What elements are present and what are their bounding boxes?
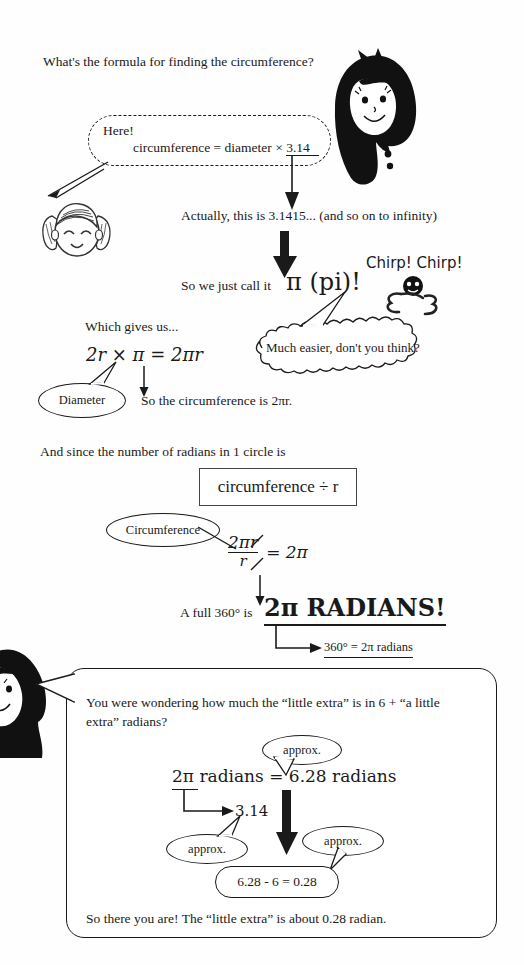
approx-callout-3-label: approx.	[324, 834, 362, 849]
panel-tail	[34, 672, 82, 710]
approx-callout-2: approx.	[166, 834, 248, 864]
chirping-bird-icon	[375, 274, 447, 322]
chirp-label: Chirp! Chirp!	[366, 254, 462, 272]
result-label: 6.28 - 6 = 0.28	[237, 874, 317, 890]
approx-callout-1-label: approx.	[283, 743, 321, 758]
so-we-call-it-label: So we just call it	[181, 278, 271, 295]
diameter-label: Diameter	[59, 393, 106, 408]
diameter-callout: Diameter	[38, 383, 126, 418]
a-full-360-label: A full 360° is	[180, 605, 253, 622]
here-label: Here!	[103, 123, 316, 139]
and-since-line: And since the number of radians in 1 cir…	[40, 444, 286, 461]
elbow-arrow-to-360-equation	[272, 624, 324, 656]
actually-line: Actually, this is 3.1415... (and so on t…	[181, 208, 437, 225]
approx-callout-2-tail	[212, 816, 246, 838]
equation-360-equals-2pi: 360° = 2π radians	[324, 640, 413, 658]
diameter-callout-tail	[82, 362, 122, 388]
approx-callout-2-label: approx.	[188, 842, 226, 857]
girl-with-long-black-hair-icon	[318, 50, 433, 190]
fraction-equals: = 2π	[266, 542, 308, 562]
so-circumference-line: So the circumference is 2πr.	[141, 393, 292, 410]
which-gives-us-label: Which gives us...	[85, 319, 178, 336]
circumference-over-r-box: circumference ÷ r	[199, 468, 357, 506]
arrow-down-to-actually	[282, 156, 302, 212]
question-line: What's the formula for finding the circu…	[43, 54, 314, 71]
panel-main-equation: 2π radians = 6.28 radians	[172, 766, 396, 786]
panel-intro-line-1: You were wondering how much the “little …	[86, 695, 440, 712]
circumference-formula: circumference = diameter × 3.14	[133, 140, 316, 156]
circumference-over-r-label: circumference ÷ r	[218, 477, 339, 497]
much-easier-bubble-tail	[293, 292, 353, 330]
much-easier-label: Much easier, don't you think?	[266, 340, 420, 356]
cancel-strokes	[250, 534, 270, 574]
smiling-girl-with-pigtails-icon	[36, 190, 118, 270]
panel-closing-line: So there you are! The “little extra” is …	[86, 911, 386, 928]
panel-intro-line-2: extra” radians?	[86, 714, 167, 731]
circumference-callout-label: Circumference	[126, 523, 200, 538]
bold-arrow-down-to-result	[272, 790, 302, 856]
two-pi-radians-heading: 2π RADIANS!	[264, 593, 446, 626]
result-box: 6.28 - 6 = 0.28	[215, 866, 339, 898]
worksheet-page: What's the formula for finding the circu…	[0, 0, 524, 965]
